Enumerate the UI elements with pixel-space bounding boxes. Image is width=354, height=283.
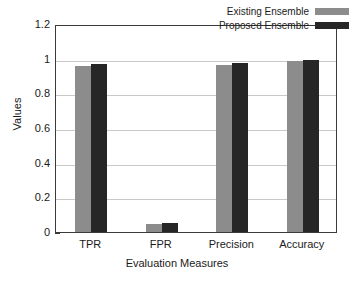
x-tick-label: Accuracy (262, 238, 342, 250)
bar-accuracy-proposed (303, 60, 319, 232)
legend-entry: Proposed Ensemble (219, 19, 349, 33)
x-tick-label: FPR (121, 238, 201, 250)
legend-label: Proposed Ensemble (219, 19, 309, 33)
x-tick-label: TPR (50, 238, 130, 250)
y-tick-label: 1.2 (16, 19, 50, 30)
bar-tpr-proposed (91, 64, 107, 232)
x-axis-title: Evaluation Measures (0, 257, 354, 269)
bar-precision-proposed (232, 63, 248, 232)
bar-precision-existing (216, 65, 232, 232)
x-tick-label: Precision (191, 238, 271, 250)
y-tick-label: 0 (16, 227, 50, 238)
chart-legend: Existing EnsembleProposed Ensemble (213, 3, 352, 34)
legend-label: Existing Ensemble (227, 5, 309, 19)
legend-swatch (315, 22, 349, 29)
y-tick-label: 0.6 (16, 123, 50, 134)
legend-swatch (315, 8, 349, 15)
y-tick-label: 1 (16, 54, 50, 65)
y-tick-label: 0.8 (16, 88, 50, 99)
y-tick-mark (55, 233, 60, 234)
y-tick-label: 0.4 (16, 158, 50, 169)
bar-tpr-existing (75, 66, 91, 232)
bar-fpr-existing (146, 224, 162, 232)
chart-figure: Values 00.20.40.60.811.2 TPRFPRPrecision… (0, 0, 354, 283)
plot-area (55, 25, 337, 233)
bar-accuracy-existing (287, 61, 303, 232)
y-tick-label: 0.2 (16, 192, 50, 203)
bar-fpr-proposed (162, 223, 178, 232)
legend-entry: Existing Ensemble (219, 5, 349, 19)
